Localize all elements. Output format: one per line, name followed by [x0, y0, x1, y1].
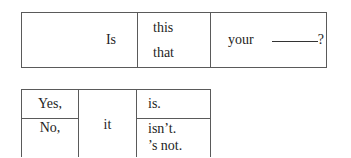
question-row: Is this that your?: [22, 13, 327, 68]
verb-form-cell-no: isn’t. ’s not.: [137, 119, 211, 158]
verb-form-cell-yes: is.: [137, 90, 211, 119]
answer-pattern-table: Yes, it is. No, isn’t. ’s not.: [21, 89, 211, 157]
response-no: No,: [40, 120, 61, 135]
answer-row-yes: Yes, it is.: [22, 90, 211, 119]
demonstrative-this: this: [138, 21, 210, 35]
possessive-text: your: [228, 32, 254, 47]
subject-cell: it: [79, 90, 137, 158]
demonstrative-cell: this that: [138, 13, 211, 68]
verb-form-isnt: isn’t.: [148, 122, 210, 136]
verb-form-s-not: ’s not.: [148, 139, 210, 153]
question-pattern-table: Is this that your?: [21, 12, 327, 68]
verb-form-is: is.: [148, 96, 161, 111]
possessive-cell: your?: [211, 13, 327, 68]
response-cell-yes: Yes,: [22, 90, 79, 119]
subject-text: it: [104, 117, 112, 132]
verb-text: Is: [106, 33, 116, 47]
response-yes: Yes,: [38, 96, 62, 111]
verb-cell: Is: [22, 13, 138, 68]
fill-in-blank: [272, 40, 318, 42]
question-mark: ?: [318, 32, 324, 47]
response-cell-no: No,: [22, 119, 79, 158]
demonstrative-that: that: [138, 46, 210, 60]
